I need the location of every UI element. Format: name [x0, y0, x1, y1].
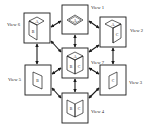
svg-text:C: C [116, 32, 119, 37]
view5-box: B [25, 65, 51, 95]
view5-label: View 5 [8, 78, 21, 83]
edge-view6-view1 [51, 21, 61, 27]
view1-box: A [62, 5, 88, 34]
view7-label: View 7 [91, 61, 104, 66]
svg-text:B: B [70, 107, 73, 111]
view6-box: A B [24, 13, 50, 43]
view2-box: A C [100, 17, 126, 47]
edge-view6-view7 [51, 41, 61, 52]
view4-box: B C [62, 93, 88, 123]
edge-view1-view2 [89, 21, 99, 28]
svg-text:C: C [78, 65, 81, 69]
view2-label: View 2 [130, 29, 143, 34]
edge-view3-view4 [89, 88, 99, 98]
view3-label: View 3 [129, 81, 142, 86]
svg-text:C: C [78, 107, 81, 111]
view1-label: View 1 [91, 6, 104, 11]
svg-text:A: A [36, 19, 39, 24]
view6-label: View 6 [7, 23, 20, 28]
edge-view5-view4 [52, 88, 61, 98]
svg-text:B: B [32, 29, 35, 34]
view7-box: A B C [62, 48, 88, 78]
svg-text:A: A [74, 55, 77, 59]
edge-view5-view7 [52, 68, 61, 74]
view3-box: C [100, 65, 126, 95]
svg-text:B: B [70, 65, 73, 69]
svg-text:C: C [112, 79, 115, 83]
view4-label: View 4 [91, 110, 104, 115]
edge-view2-view7 [89, 45, 99, 52]
svg-text:B: B [36, 79, 39, 83]
edge-view3-view7 [89, 68, 99, 74]
view-diagram: A A C A B A B C B C [0, 0, 154, 133]
svg-text:A: A [112, 22, 115, 27]
svg-text:A: A [73, 18, 76, 23]
